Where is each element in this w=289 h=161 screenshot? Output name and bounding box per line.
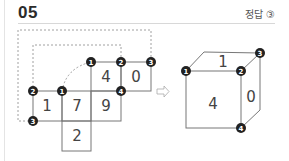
net-face-4: 4 — [101, 68, 111, 86]
arrow-right-icon — [157, 86, 169, 97]
cube-face-side-0: 0 — [246, 88, 256, 106]
net-vertex-3-bottom: 3 — [28, 116, 38, 126]
net-vertex-4: 4 — [116, 86, 126, 96]
svg-text:2: 2 — [119, 59, 124, 67]
svg-text:4: 4 — [239, 125, 244, 133]
cube-vertex-4: 4 — [236, 123, 246, 133]
cube-net-figure: 4 0 1 7 9 2 1 2 3 2 1 4 3 1 4 0 1 2 3 4 — [0, 0, 289, 161]
svg-text:3: 3 — [258, 50, 263, 58]
net-face-9: 9 — [101, 97, 111, 115]
net-vertex-3-top: 3 — [146, 57, 156, 67]
net-vertex-1-top: 1 — [86, 57, 96, 67]
svg-text:1: 1 — [184, 68, 189, 76]
net-vertex-1-mid: 1 — [57, 86, 67, 96]
svg-text:2: 2 — [31, 88, 36, 96]
cube-vertex-2: 2 — [236, 66, 246, 76]
net-face-7: 7 — [72, 97, 82, 115]
svg-text:2: 2 — [239, 68, 244, 76]
svg-text:4: 4 — [119, 88, 124, 96]
net-face-1: 1 — [42, 97, 52, 115]
svg-text:3: 3 — [149, 59, 154, 67]
net-face-2: 2 — [72, 127, 82, 145]
net-face-0: 0 — [131, 68, 141, 86]
cube-face-front-4: 4 — [208, 95, 218, 113]
svg-text:1: 1 — [89, 59, 94, 67]
cube-vertex-1: 1 — [181, 66, 191, 76]
svg-text:1: 1 — [60, 88, 65, 96]
svg-text:3: 3 — [31, 118, 36, 126]
net-vertex-2-top: 2 — [116, 57, 126, 67]
net-vertex-2-left: 2 — [28, 86, 38, 96]
cube-vertex-3: 3 — [255, 48, 265, 58]
cube-face-top-1: 1 — [218, 53, 228, 71]
cube-face-labels: 1 4 0 — [208, 53, 256, 113]
